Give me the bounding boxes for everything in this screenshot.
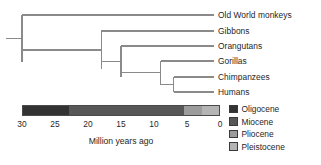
legend-swatch-icon-oligocene — [229, 105, 238, 114]
legend-swatch-icon-miocene — [229, 117, 238, 126]
tick-label-30: 30 — [17, 119, 26, 129]
tick-label-0: 0 — [218, 119, 223, 129]
tick-label-20: 20 — [83, 119, 92, 129]
legend-item-pleistocene: Pleistocene — [229, 141, 285, 153]
tip-label-old-world-monkeys: Old World monkeys — [218, 10, 292, 20]
epoch-segment-oligocene — [23, 106, 69, 115]
phylogenetic-tree-figure: Old World monkeysGibbonsOrangutansGorill… — [0, 0, 321, 165]
axis-title: Million years ago — [89, 136, 153, 146]
legend-label-oligocene: Oligocene — [242, 104, 280, 114]
epoch-segment-miocene — [69, 106, 185, 115]
epoch-segment-pliocene — [184, 106, 202, 115]
legend-label-pleistocene: Pleistocene — [242, 142, 285, 152]
legend-swatch-icon-pliocene — [229, 130, 238, 139]
legend-swatch-icon-pleistocene — [229, 142, 238, 151]
geologic-timescale-bar — [22, 105, 220, 116]
legend-item-oligocene: Oligocene — [229, 103, 285, 115]
tip-label-orangutans: Orangutans — [218, 41, 262, 51]
epoch-segment-pleistocene — [202, 106, 219, 115]
tick-label-15: 15 — [116, 119, 125, 129]
tick-label-10: 10 — [149, 119, 158, 129]
tip-label-chimpanzees: Chimpanzees — [218, 72, 270, 82]
legend-item-miocene: Miocene — [229, 116, 285, 128]
tick-label-5: 5 — [185, 119, 190, 129]
tip-label-humans: Humans — [218, 87, 250, 97]
epoch-legend: OligoceneMiocenePliocenePleistocene — [229, 103, 285, 153]
tip-label-gorillas: Gorillas — [218, 56, 247, 66]
legend-label-pliocene: Pliocene — [242, 129, 274, 139]
tip-label-gibbons: Gibbons — [218, 26, 250, 36]
legend-item-pliocene: Pliocene — [229, 128, 285, 140]
tick-label-25: 25 — [50, 119, 59, 129]
legend-label-miocene: Miocene — [242, 117, 274, 127]
